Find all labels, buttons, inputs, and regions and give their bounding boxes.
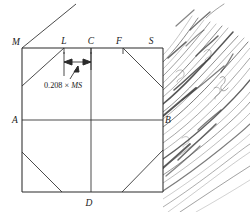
grain-texture-group — [163, 4, 250, 212]
dimension-callout — [64, 52, 91, 79]
dimension-text: 0.208 × MS — [44, 81, 82, 90]
diagonal-F-to-right-edge — [123, 48, 163, 88]
dimension-text-group: 0.208 × MS — [44, 81, 82, 90]
vertex-label-F: F — [115, 36, 122, 46]
vertex-label-M: M — [11, 37, 21, 47]
vertex-label-A: A — [11, 115, 18, 125]
leader-arrowhead — [74, 66, 79, 72]
internal-construction-lines — [22, 4, 163, 192]
diagonal-bottom-right-chamfer — [122, 150, 163, 192]
diagram-canvas: M L C F S A B D 0.208 × MS — [0, 0, 250, 212]
vertex-label-D: D — [85, 198, 93, 208]
arrowhead-left — [64, 59, 72, 65]
vertex-label-S: S — [149, 36, 154, 46]
diagonal-bottom-left-chamfer — [22, 152, 62, 192]
tick-marks-top — [64, 48, 123, 54]
diagonal-through-M-extended — [22, 4, 76, 48]
dimension-value: 0.208 — [44, 81, 62, 90]
arrowhead-right — [83, 59, 91, 65]
vertex-label-B: B — [165, 115, 171, 125]
figure-root: M L C F S A B D 0.208 × MS — [0, 0, 250, 212]
vertex-label-L: L — [60, 36, 66, 46]
vertex-label-C: C — [88, 36, 95, 46]
dimension-reference: MS — [70, 81, 82, 90]
